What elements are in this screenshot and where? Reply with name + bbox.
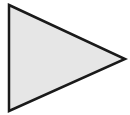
right-pointing-triangle [9, 5, 125, 111]
triangle-icon [0, 0, 130, 115]
canvas [0, 0, 130, 115]
